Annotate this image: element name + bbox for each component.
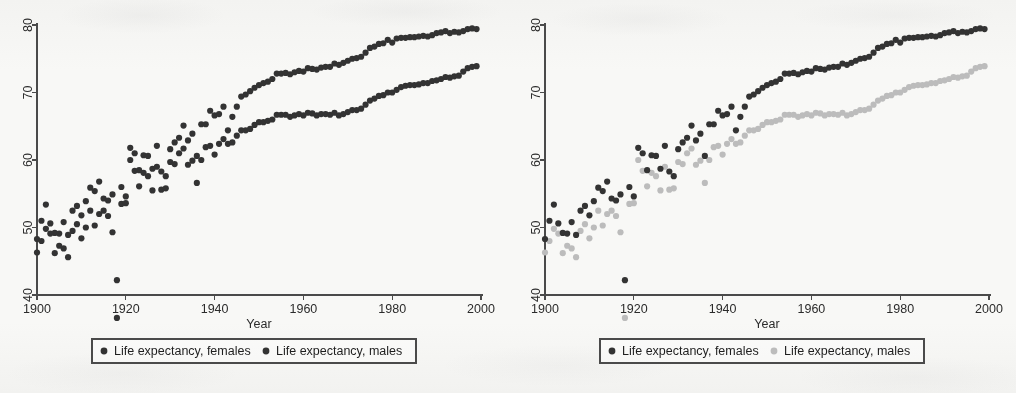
legend-label: Life expectancy, males — [784, 344, 910, 358]
y-tick-label: 60 — [529, 153, 543, 167]
x-tick-label: 1960 — [797, 302, 825, 316]
x-tick-label: 1980 — [886, 302, 914, 316]
legend-marker — [101, 348, 108, 355]
y-tick-label: 60 — [21, 153, 35, 167]
series-males — [542, 63, 988, 321]
legend: Life expectancy, femalesLife expectancy,… — [92, 339, 416, 363]
x-tick-label: 1900 — [531, 302, 559, 316]
legend-marker — [609, 348, 616, 355]
axes: 4050607080190019201940196019802000Year — [529, 18, 1003, 331]
series-females — [34, 25, 480, 283]
x-tick-label: 2000 — [975, 302, 1003, 316]
x-axis-title: Year — [754, 317, 779, 331]
legend-label: Life expectancy, males — [276, 344, 402, 358]
legend-label: Life expectancy, females — [622, 344, 759, 358]
chart-panel-left: 4050607080190019201940196019802000YearLi… — [0, 0, 508, 393]
y-tick-label: 80 — [529, 18, 543, 32]
series-males — [34, 63, 480, 321]
scatter-plot-left: 4050607080190019201940196019802000YearLi… — [0, 0, 508, 393]
y-tick-label: 80 — [21, 18, 35, 32]
x-tick-label: 1980 — [378, 302, 406, 316]
legend: Life expectancy, femalesLife expectancy,… — [600, 339, 924, 363]
y-tick-label: 50 — [529, 221, 543, 235]
y-tick-label: 50 — [21, 221, 35, 235]
x-tick-label: 1960 — [289, 302, 317, 316]
legend-marker — [771, 348, 778, 355]
x-tick-label: 2000 — [467, 302, 495, 316]
series-females — [542, 25, 988, 283]
y-tick-label: 40 — [529, 288, 543, 302]
y-tick-label: 70 — [529, 86, 543, 100]
y-tick-label: 40 — [21, 288, 35, 302]
x-tick-label: 1920 — [620, 302, 648, 316]
x-tick-label: 1940 — [709, 302, 737, 316]
x-tick-label: 1900 — [23, 302, 51, 316]
y-tick-label: 70 — [21, 86, 35, 100]
x-tick-label: 1920 — [112, 302, 140, 316]
chart-panel-right: 4050607080190019201940196019802000YearLi… — [508, 0, 1016, 393]
figure-root: 4050607080190019201940196019802000YearLi… — [0, 0, 1016, 393]
legend-label: Life expectancy, females — [114, 344, 251, 358]
x-axis-title: Year — [246, 317, 271, 331]
x-tick-label: 1940 — [201, 302, 229, 316]
scatter-plot-right: 4050607080190019201940196019802000YearLi… — [508, 0, 1016, 393]
legend-marker — [263, 348, 270, 355]
axes: 4050607080190019201940196019802000Year — [21, 18, 495, 331]
